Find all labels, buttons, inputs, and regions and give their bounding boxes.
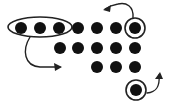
dot (15, 22, 27, 34)
dot (129, 61, 141, 73)
dot (91, 42, 103, 54)
dot (129, 42, 141, 54)
dot (129, 22, 141, 34)
dot (110, 42, 122, 54)
dot (130, 84, 142, 96)
dot (72, 22, 84, 34)
dot (110, 61, 122, 73)
group-move-arrow (25, 37, 60, 67)
arrowhead-icon (103, 5, 111, 12)
dot (91, 61, 103, 73)
diagram-canvas (0, 0, 170, 109)
arrowhead-icon (155, 72, 163, 79)
dot (72, 42, 84, 54)
dot (54, 42, 66, 54)
dot (110, 22, 122, 34)
dot (53, 22, 65, 34)
dot (34, 22, 46, 34)
dot-diagram (0, 0, 170, 109)
dot (91, 22, 103, 34)
arrowhead-icon (54, 63, 62, 71)
